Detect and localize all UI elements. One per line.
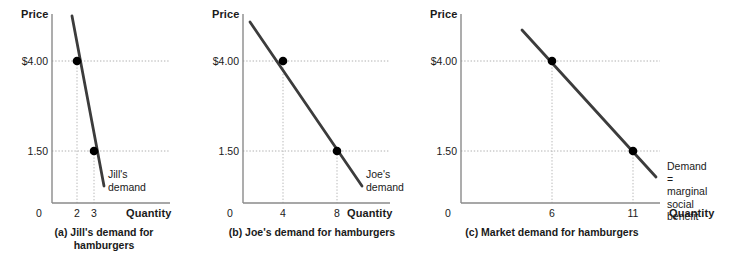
price-axis-title: Price [430,8,457,20]
ytick-label-400: $4.00 [417,55,457,67]
panel-caption: (c) Market demand for hamburgers [427,226,677,239]
curve-annotation: Demand = marginal social benefit [667,160,707,223]
xtick-label-first: 6 [549,207,555,219]
three-panel-demand-figure: Price Quantity $4.00 1.50 0 2 3 Jill's d… [0,0,752,253]
data-point-2 [629,147,638,156]
origin-label: 0 [445,207,451,219]
xtick-label-second: 11 [628,207,639,219]
data-point-1 [548,57,557,66]
demand-curve [522,30,656,177]
ytick-label-150: 1.50 [417,145,457,157]
panel-c-plot [0,0,752,253]
